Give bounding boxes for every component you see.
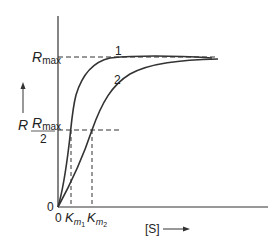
half-rmax-denominator: 2 [40, 132, 47, 146]
curve-1 [58, 56, 212, 207]
origin-y-label: 0 [47, 200, 54, 214]
michaelis-menten-chart: 1 2 Rmax Rmax 2 R 0 0 Km1 Km2 [S] [0, 0, 275, 252]
half-rmax-numerator: Rmax [32, 115, 61, 132]
rmax-label: Rmax [32, 49, 61, 66]
km1-label: Km1 [65, 210, 85, 228]
right-arrow-icon [183, 227, 190, 232]
x-axis-label: [S] [145, 222, 160, 236]
y-axis-label: R [18, 117, 28, 133]
km2-label: Km2 [87, 210, 107, 228]
origin-x-label: 0 [55, 211, 62, 225]
curve-1-label: 1 [115, 44, 122, 58]
curve-2-label: 2 [114, 73, 121, 87]
up-arrow-icon [21, 82, 26, 89]
